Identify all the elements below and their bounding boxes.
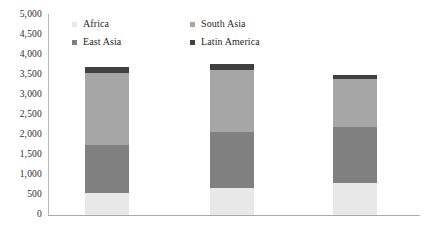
legend-item[interactable]: Africa [72,19,190,29]
bar-column[interactable] [210,64,254,215]
y-axis-tick-label: 2,500 [20,110,42,120]
y-axis-tick-label: 1,000 [20,170,42,180]
legend-item-label: Latin America [201,37,260,47]
y-axis-tick-label: 3,500 [20,70,42,80]
y-axis-tick-label: 1,500 [20,150,42,160]
legend-item[interactable]: East Asia [72,37,190,47]
legend-swatch-icon [72,22,77,27]
bar-segment[interactable] [210,70,254,132]
y-axis-tick-label: 500 [27,190,42,200]
bar-segment[interactable] [333,183,377,215]
bar-column[interactable] [333,75,377,215]
bar-segment[interactable] [210,188,254,215]
legend-item[interactable]: South Asia [190,19,308,29]
legend-item-label: South Asia [201,19,246,29]
y-axis-tick-label: 4,000 [20,50,42,60]
y-axis-tick-label: 3,000 [20,90,42,100]
legend-item[interactable]: Latin America [190,37,308,47]
legend-swatch-icon [190,40,195,45]
y-axis-tick-label: 5,000 [20,10,42,20]
legend-item-label: Africa [83,19,109,29]
bar-segment[interactable] [210,132,254,188]
bar-segment[interactable] [85,193,129,215]
y-axis: 5,0004,5004,0003,5003,0002,5002,0001,500… [0,0,46,232]
chart-legend: AfricaSouth AsiaEast AsiaLatin America [72,15,302,51]
stacked-bar-chart: 5,0004,5004,0003,5003,0002,5002,0001,500… [0,0,424,232]
bar-column[interactable] [85,67,129,215]
y-axis-tick-label: 4,500 [20,30,42,40]
y-axis-tick-label: 0 [37,210,42,220]
bar-segment[interactable] [85,73,129,145]
y-axis-tick-label: 2,000 [20,130,42,140]
bar-segment[interactable] [333,79,377,127]
legend-swatch-icon [190,22,195,27]
legend-swatch-icon [72,40,77,45]
x-axis-line [48,215,420,216]
bar-segment[interactable] [85,145,129,193]
bar-segment[interactable] [333,127,377,183]
legend-item-label: East Asia [83,37,121,47]
